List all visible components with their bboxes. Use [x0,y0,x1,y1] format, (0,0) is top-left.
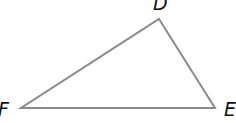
triangle-def [21,19,215,108]
triangle-canvas [0,0,236,123]
vertex-label-e: E [224,100,236,119]
vertex-label-d: D [153,0,168,13]
vertex-label-f: F [0,100,9,119]
